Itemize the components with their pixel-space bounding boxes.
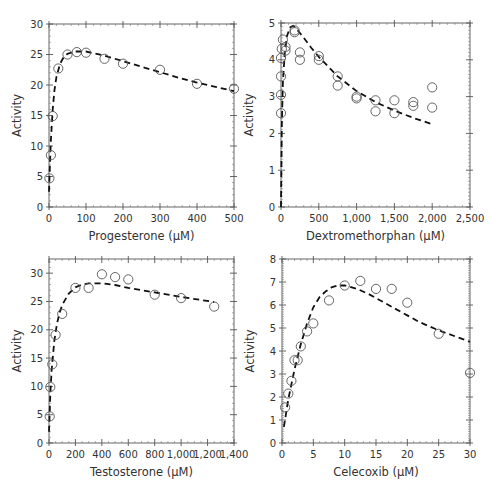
plot-frame	[282, 259, 470, 443]
x-tick-label: 1,200	[193, 449, 222, 460]
x-tick-label: 5	[310, 449, 316, 460]
x-tick-label: 300	[150, 213, 169, 224]
y-axis-title: Activity	[10, 94, 24, 137]
data-point	[356, 276, 365, 285]
x-axis-title: Testosterone (μM)	[89, 465, 193, 479]
y-tick-label: 5	[37, 409, 43, 420]
x-tick-label: 1,000	[167, 449, 196, 460]
x-tick-label: 500	[309, 213, 328, 224]
y-tick-label: 0	[37, 438, 43, 449]
fit-curve	[281, 26, 432, 207]
data-point	[324, 296, 333, 305]
y-tick-label: 4	[269, 54, 275, 65]
y-tick-label: 5	[269, 18, 275, 29]
data-point	[333, 81, 342, 90]
x-tick-label: 1,400	[220, 449, 249, 460]
x-tick-label: 30	[464, 449, 477, 460]
x-tick-label: 1,000	[342, 213, 371, 224]
y-tick-label: 0	[37, 202, 43, 213]
data-point	[84, 283, 93, 292]
data-point	[434, 329, 443, 338]
y-tick-label: 5	[270, 323, 276, 334]
y-tick-label: 7	[270, 277, 276, 288]
data-point	[309, 319, 318, 328]
data-point	[111, 273, 120, 282]
x-tick-label: 800	[145, 449, 164, 460]
x-tick-label: 400	[187, 213, 206, 224]
x-tick-label: 0	[46, 449, 52, 460]
data-point	[58, 309, 67, 318]
data-point	[150, 290, 159, 299]
y-axis-title: Activity	[10, 329, 24, 372]
x-tick-label: 25	[432, 449, 445, 460]
y-tick-label: 10	[30, 141, 43, 152]
y-axis-title: Activity	[243, 329, 257, 372]
x-tick-label: 400	[92, 449, 111, 460]
data-point	[124, 275, 133, 284]
y-tick-label: 0	[269, 202, 275, 213]
figure-panels: 0100200300400500051015202530Progesterone…	[0, 0, 491, 488]
x-tick-label: 0	[278, 213, 284, 224]
x-tick-label: 0	[279, 449, 285, 460]
fit-curve	[284, 286, 470, 427]
data-point	[428, 103, 437, 112]
x-axis-title: Dextromethorphan (μM)	[306, 229, 445, 243]
y-tick-label: 25	[30, 49, 43, 60]
y-tick-label: 6	[270, 300, 276, 311]
x-tick-label: 500	[224, 213, 243, 224]
fit-curve	[49, 52, 234, 192]
data-point	[403, 298, 412, 307]
x-tick-label: 1,500	[380, 213, 409, 224]
y-tick-label: 2	[270, 392, 276, 403]
y-tick-label: 8	[270, 254, 276, 265]
y-tick-label: 15	[30, 110, 43, 121]
y-tick-label: 20	[30, 80, 43, 91]
y-axis-title: Activity	[242, 93, 256, 136]
y-tick-label: 10	[30, 381, 43, 392]
x-axis-title: Progesterone (μM)	[89, 229, 195, 243]
y-tick-label: 1	[270, 415, 276, 426]
chart-celecoxib: 051015202530012345678Celecoxib (μM)Activ…	[243, 254, 476, 480]
data-point	[387, 284, 396, 293]
data-point	[97, 270, 106, 279]
chart-dextromethorphan: 05001,0001,5002,0002,500012345Dextrometh…	[242, 18, 484, 244]
y-tick-label: 30	[30, 19, 43, 30]
x-tick-label: 100	[76, 213, 95, 224]
y-tick-label: 25	[30, 296, 43, 307]
x-tick-label: 10	[338, 449, 351, 460]
data-point	[210, 302, 219, 311]
x-tick-label: 2,000	[418, 213, 447, 224]
data-point	[371, 107, 380, 116]
x-axis-title: Celecoxib (μM)	[333, 465, 419, 479]
data-point	[390, 109, 399, 118]
y-tick-label: 0	[270, 438, 276, 449]
data-point	[390, 96, 399, 105]
fit-curve	[49, 283, 214, 431]
x-tick-label: 20	[401, 449, 414, 460]
y-tick-label: 2	[269, 128, 275, 139]
y-tick-label: 30	[30, 268, 43, 279]
plot-frame	[281, 23, 470, 207]
y-tick-label: 3	[270, 369, 276, 380]
y-tick-label: 15	[30, 353, 43, 364]
data-point	[371, 284, 380, 293]
chart-progesterone: 0100200300400500051015202530Progesterone…	[10, 19, 244, 244]
data-point	[303, 327, 312, 336]
x-tick-label: 2,500	[456, 213, 485, 224]
x-tick-label: 15	[370, 449, 383, 460]
data-point	[118, 59, 127, 68]
data-point	[155, 65, 164, 74]
data-point	[71, 283, 80, 292]
chart-testosterone: 02004006008001,0001,2001,400051015202530…	[10, 256, 248, 479]
data-point	[100, 54, 109, 63]
data-point	[428, 83, 437, 92]
x-tick-label: 0	[46, 213, 52, 224]
y-tick-label: 4	[270, 346, 276, 357]
y-tick-label: 3	[269, 91, 275, 102]
x-tick-label: 600	[119, 449, 138, 460]
x-tick-label: 200	[66, 449, 85, 460]
y-tick-label: 5	[37, 171, 43, 182]
y-tick-label: 20	[30, 324, 43, 335]
data-point	[192, 79, 201, 88]
x-tick-label: 200	[113, 213, 132, 224]
